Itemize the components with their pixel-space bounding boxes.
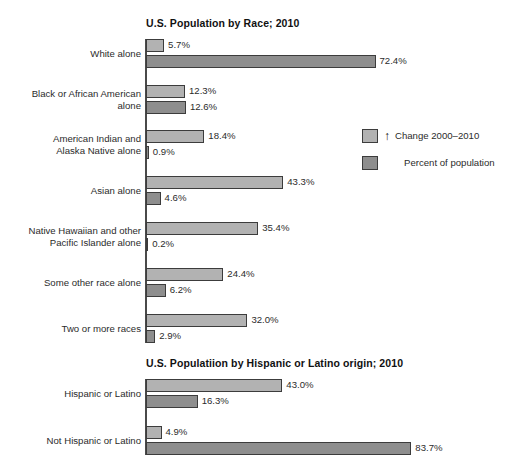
bar-row: 35.4% [146, 222, 486, 235]
bar-value-label: 0.2% [152, 237, 174, 251]
bar-percent [146, 284, 166, 297]
bar-value-label: 24.4% [227, 267, 254, 281]
race-chart-panel: White alone5.7%72.4%Black or African Ame… [0, 34, 509, 346]
legend-swatch-percent-icon [362, 156, 378, 170]
bar-row: 5.7% [146, 39, 486, 52]
category-label: Two or more races [0, 323, 141, 335]
bar-row: 32.0% [146, 314, 486, 327]
bar-change [146, 39, 164, 52]
bar-row: 43.0% [146, 379, 486, 392]
bar-change [146, 222, 258, 235]
bar-percent [146, 330, 155, 343]
category-label: White alone [0, 48, 141, 60]
bar-percent [146, 442, 411, 455]
race-chart-title: U.S. Population by Race; 2010 [146, 17, 299, 29]
bar-percent [146, 101, 186, 114]
bar-percent [146, 146, 149, 159]
category-label: American Indian and Alaska Native alone [0, 133, 141, 156]
category-label: Native Hawaiian and other Pacific Island… [0, 225, 141, 248]
category-label: Asian alone [0, 185, 141, 197]
bar-value-label: 35.4% [262, 221, 289, 235]
category-label: Black or African American alone [0, 88, 141, 111]
bar-value-label: 12.6% [190, 100, 217, 114]
bar-value-label: 18.4% [208, 129, 235, 143]
bar-row: 83.7% [146, 442, 486, 455]
legend-label-change: Change 2000–2010 [395, 128, 479, 144]
up-arrow-icon: ↑ [384, 128, 390, 144]
bar-percent [146, 55, 376, 68]
bar-value-label: 5.7% [168, 38, 190, 52]
bar-value-label: 6.2% [170, 283, 192, 297]
bar-change [146, 130, 204, 143]
bar-percent [146, 238, 148, 251]
bar-change [146, 314, 247, 327]
bar-value-label: 16.3% [202, 394, 229, 408]
bar-row: 24.4% [146, 268, 486, 281]
bar-value-label: 0.9% [153, 145, 175, 159]
population-charts-figure: U.S. Population by Race; 2010 White alon… [0, 0, 509, 469]
category-label: Not Hispanic or Latino [0, 435, 141, 447]
category-label: Hispanic or Latino [0, 388, 141, 400]
bar-percent [146, 395, 198, 408]
origin-chart-title: U.S. Populatiion by Hispanic or Latino o… [146, 357, 403, 369]
bar-row: 12.6% [146, 101, 486, 114]
bar-percent [146, 192, 161, 205]
legend-swatch-change-icon [362, 129, 378, 143]
bar-row: 0.2% [146, 238, 486, 251]
bar-value-label: 4.6% [165, 191, 187, 205]
bar-value-label: 12.3% [189, 84, 216, 98]
bar-value-label: 43.3% [287, 175, 314, 189]
bar-change [146, 426, 162, 439]
origin-chart-panel: Hispanic or Latino43.0%16.3%Not Hispanic… [0, 374, 509, 466]
bar-row: 4.6% [146, 192, 486, 205]
bar-change [146, 85, 185, 98]
bar-row: 12.3% [146, 85, 486, 98]
legend-item-change: ↑ Change 2000–2010 [362, 128, 507, 155]
bar-change [146, 379, 282, 392]
bar-row: 6.2% [146, 284, 486, 297]
bar-value-label: 43.0% [286, 378, 313, 392]
legend-label-percent: Percent of population [404, 155, 495, 171]
bar-change [146, 268, 223, 281]
category-label: Some other race alone [0, 277, 141, 289]
bar-value-label: 2.9% [159, 329, 181, 343]
bar-value-label: 72.4% [380, 54, 407, 68]
bar-row: 4.9% [146, 426, 486, 439]
bar-row: 16.3% [146, 395, 486, 408]
bar-value-label: 83.7% [415, 441, 442, 455]
bar-row: 72.4% [146, 55, 486, 68]
bar-value-label: 4.9% [166, 425, 188, 439]
bar-value-label: 32.0% [251, 313, 278, 327]
legend-item-percent: Percent of population [362, 155, 507, 182]
bar-change [146, 176, 283, 189]
chart-legend: ↑ Change 2000–2010 Percent of population [362, 128, 507, 182]
bar-row: 2.9% [146, 330, 486, 343]
